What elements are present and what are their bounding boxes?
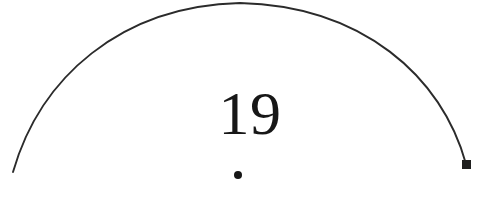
arc-end-square-marker-icon <box>462 160 471 169</box>
page-number: 19 <box>0 82 504 144</box>
page-number-text: 19 <box>219 82 282 144</box>
scanned-page-canvas: 19 <box>0 0 504 208</box>
dot-below-number-icon <box>234 171 242 179</box>
